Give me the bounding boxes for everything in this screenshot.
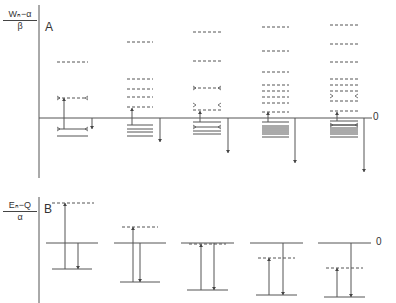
panel-a-column-2 [127,42,162,142]
panel-a-column-4 [262,27,297,163]
panel-b-label: B [44,202,52,216]
arrow-up-icon [198,111,202,114]
panel-b-ylabel-numerator: Eₙ−Q [3,200,37,212]
panel-a-column-3 [193,32,230,153]
arrow-up-icon [130,108,134,111]
bracket-left [330,94,333,98]
panel-a-ylabel-denominator: β [3,21,37,31]
arrow-up-icon [335,112,339,115]
arrow-down-icon [158,139,162,142]
panel-b-column-2 [114,227,166,282]
panel-b-ylabel-denominator: α [3,212,37,222]
panel-a-column-1 [57,62,94,136]
panel-a-ylabel-numerator: Wₙ−α [3,9,37,21]
panel-b-column-5 [318,243,371,297]
panel-a [39,5,372,178]
bracket-left [193,103,196,107]
panel-b-column-3 [181,243,234,290]
bracket-right [355,94,358,98]
arrow-down-icon [293,160,297,163]
panel-b-ylabel: Eₙ−Q α [3,200,37,222]
arrow-down-icon [226,150,230,153]
panel-b-column-4 [250,243,303,295]
bracket-right [218,103,221,107]
panel-b-zero-label: 0 [376,236,382,247]
arrow-down-icon [362,169,366,172]
panel-b-column-1 [46,203,98,269]
energy-level-diagram [0,0,396,303]
arrow-down-icon [90,126,94,129]
panel-a-column-5 [330,25,366,172]
panel-a-label: A [45,20,53,34]
panel-a-zero-label: 0 [373,111,379,122]
panel-b [39,197,371,303]
panel-a-ylabel: Wₙ−α β [3,9,37,31]
